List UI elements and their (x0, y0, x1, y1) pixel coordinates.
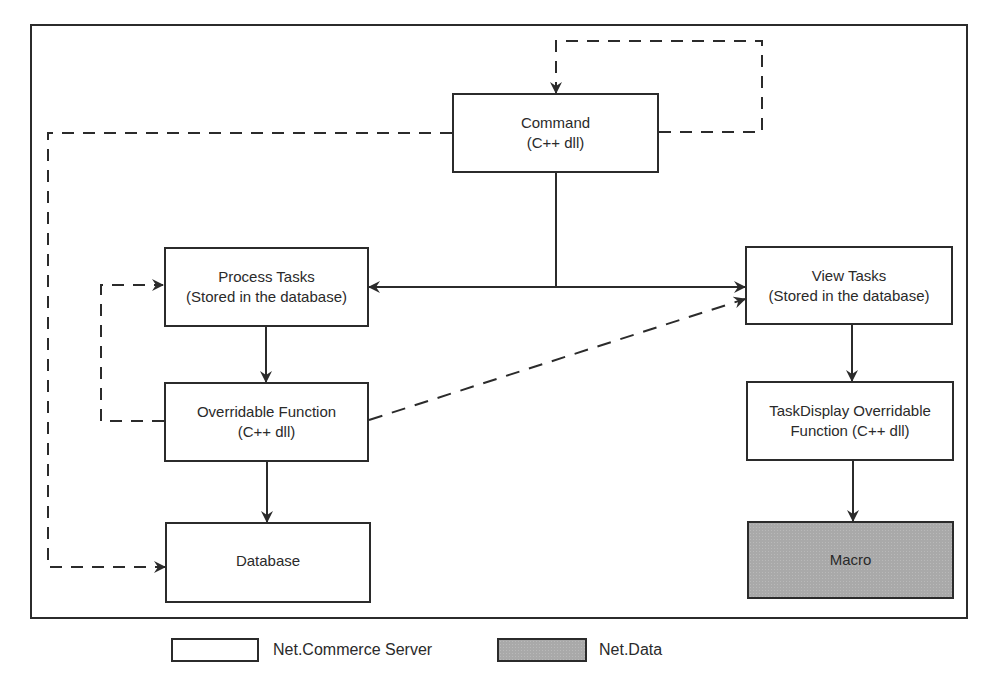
edge-overridable-to-view-tasks (369, 299, 745, 420)
legend-swatch-white (171, 638, 259, 662)
node-view-tasks-subtitle: (Stored in the database) (769, 286, 930, 306)
node-command: Command (C++ dll) (452, 93, 659, 173)
node-process-tasks: Process Tasks (Stored in the database) (164, 247, 369, 327)
node-process-tasks-subtitle: (Stored in the database) (186, 287, 347, 307)
node-process-tasks-title: Process Tasks (218, 267, 314, 287)
node-view-tasks: View Tasks (Stored in the database) (745, 246, 953, 325)
node-taskdisplay-function: TaskDisplay Overridable Function (C++ dl… (746, 381, 954, 461)
legend-item-net-data: Net.Data (497, 638, 662, 662)
node-taskdisplay-function-title: TaskDisplay Overridable (769, 401, 931, 421)
node-command-subtitle: (C++ dll) (527, 133, 585, 153)
node-macro-title: Macro (830, 550, 872, 570)
node-overridable-function: Overridable Function (C++ dll) (164, 382, 369, 462)
node-view-tasks-title: View Tasks (812, 266, 886, 286)
node-command-title: Command (521, 113, 590, 133)
legend-item-net-commerce-server: Net.Commerce Server (171, 638, 432, 662)
edge-overridable-to-process-tasks (101, 285, 164, 421)
edge-command-to-database (48, 133, 452, 567)
node-overridable-function-title: Overridable Function (197, 402, 336, 422)
node-database: Database (165, 522, 371, 603)
legend-label: Net.Commerce Server (273, 641, 432, 659)
node-database-title: Database (236, 551, 300, 571)
node-overridable-function-subtitle: (C++ dll) (238, 422, 296, 442)
legend-swatch-gray (497, 638, 587, 662)
node-taskdisplay-function-subtitle: Function (C++ dll) (790, 421, 909, 441)
node-macro: Macro (747, 521, 954, 599)
legend-label: Net.Data (599, 641, 662, 659)
